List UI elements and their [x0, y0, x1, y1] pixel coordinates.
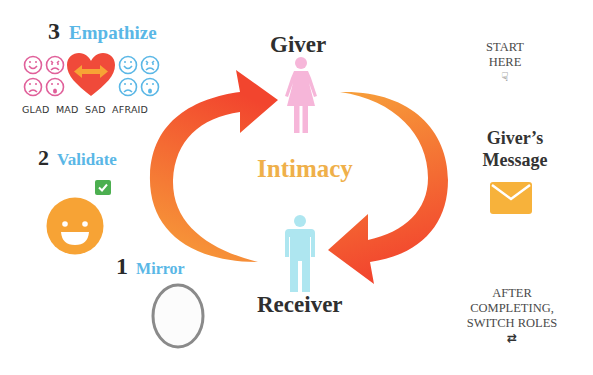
message-line2: Message [470, 149, 560, 171]
center-label: Intimacy [257, 155, 353, 183]
male-figure-icon [284, 215, 316, 293]
message-line1: Giver’s [470, 127, 560, 149]
female-figure-icon [284, 56, 318, 134]
envelope-icon [490, 182, 532, 214]
giver-label: Giver [270, 32, 326, 58]
start-here-note: START HERE ☟ [478, 40, 532, 84]
after-line1: AFTER [453, 286, 571, 301]
start-line1: START [478, 40, 532, 55]
pointing-hand-icon: ☟ [478, 70, 532, 84]
switch-icon: ⇄ [453, 331, 571, 346]
givers-message: Giver’s Message [470, 127, 560, 171]
receiver-label: Receiver [257, 292, 343, 318]
arrow-giver-to-receiver [328, 92, 448, 284]
after-line3: SWITCH ROLES [453, 316, 571, 331]
start-line2: HERE [478, 55, 532, 70]
after-line2: COMPLETING, [453, 301, 571, 316]
switch-roles-note: AFTER COMPLETING, SWITCH ROLES ⇄ [453, 286, 571, 346]
